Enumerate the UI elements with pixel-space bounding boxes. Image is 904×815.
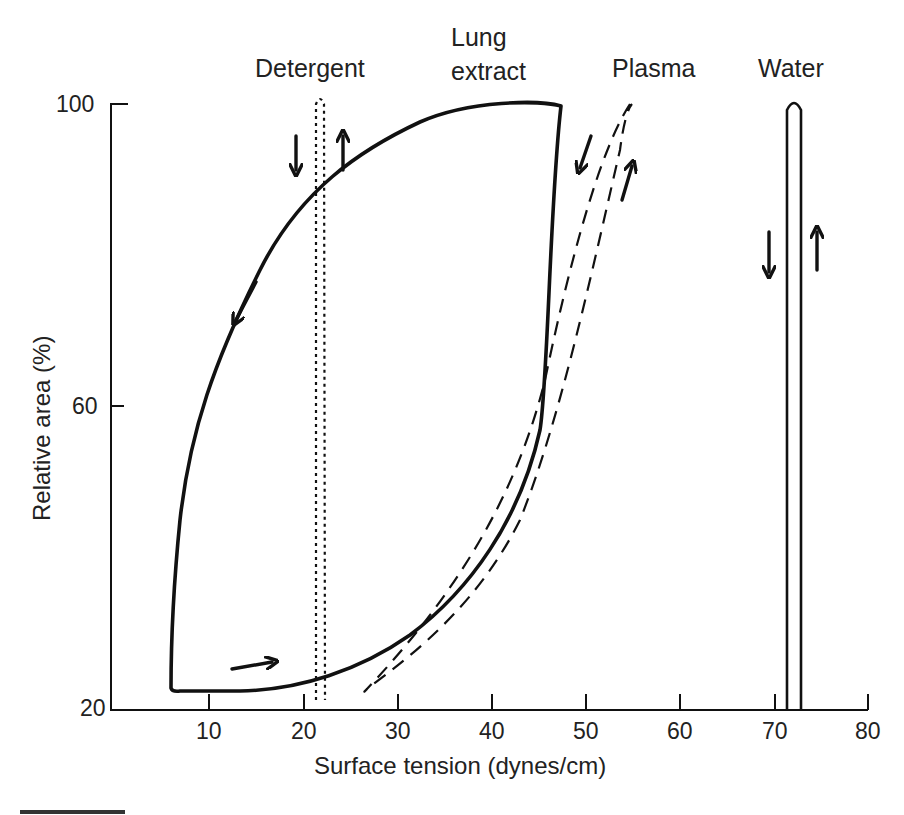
y-axis-title: Relative area (%) xyxy=(28,336,56,521)
axes xyxy=(111,104,868,710)
arrow-right-icon xyxy=(232,662,272,669)
water-curve xyxy=(787,103,801,710)
y-tick-label-100: 100 xyxy=(56,93,94,116)
label-detergent: Detergent xyxy=(255,56,365,81)
lung-extract-curve xyxy=(171,103,561,692)
arrow-up-right-icon xyxy=(622,166,632,200)
x-tick-label-60: 60 xyxy=(667,720,693,743)
x-tick-label-70: 70 xyxy=(762,720,788,743)
x-tick-label-10: 10 xyxy=(196,720,222,743)
y-tick-label-60: 60 xyxy=(72,395,98,418)
y-tick-label-20: 20 xyxy=(80,697,106,720)
chart-canvas xyxy=(0,0,904,815)
arrow-down-left-icon xyxy=(580,136,591,168)
arrow-down-left-icon xyxy=(236,282,256,320)
x-tick-label-80: 80 xyxy=(855,720,881,743)
x-axis-title: Surface tension (dynes/cm) xyxy=(314,754,606,778)
label-lung-line1: Lung xyxy=(451,25,507,50)
label-lung-line2: extract xyxy=(451,59,526,84)
x-tick-label-30: 30 xyxy=(385,720,411,743)
x-tick-label-20: 20 xyxy=(291,720,317,743)
label-water: Water xyxy=(758,56,824,81)
direction-arrows xyxy=(232,136,817,669)
x-tick-label-40: 40 xyxy=(479,720,505,743)
footer-rule xyxy=(20,810,125,814)
plasma-curve xyxy=(364,104,632,692)
label-plasma: Plasma xyxy=(612,56,695,81)
x-tick-label-50: 50 xyxy=(573,720,599,743)
axis-lines xyxy=(111,104,868,710)
